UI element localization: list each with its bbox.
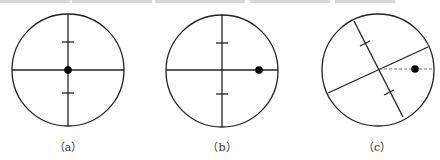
figure-b [166,15,278,127]
figure-c [322,14,435,126]
target-dot-b [255,66,263,74]
target-dot-c [411,65,419,73]
diagram-canvas [0,0,440,160]
figure-a [12,14,124,126]
target-dot-a [64,66,72,74]
figure-label-c: （c） [357,138,397,154]
figure-label-b: （b） [202,138,242,154]
figure-label-a: （a） [48,138,88,154]
